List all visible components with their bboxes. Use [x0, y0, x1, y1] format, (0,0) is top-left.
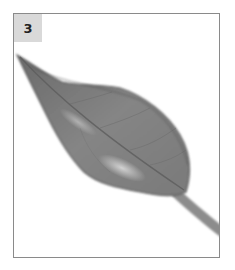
leaf-illustration: [13, 13, 220, 258]
leaf-blade: [17, 55, 189, 196]
figure-panel: 3: [13, 13, 220, 258]
panel-label: 3: [14, 14, 42, 42]
